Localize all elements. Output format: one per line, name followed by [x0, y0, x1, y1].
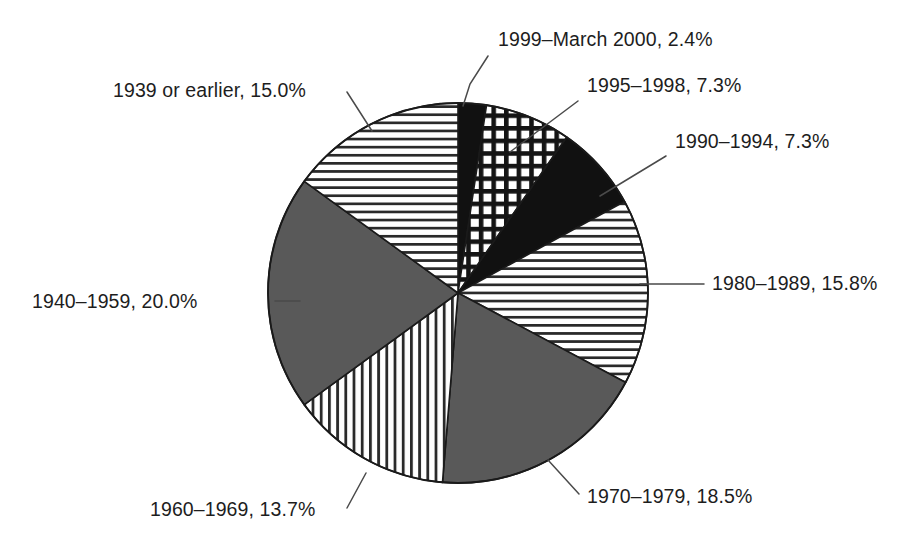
slice-label: 1999–March 2000, 2.4% [498, 28, 713, 50]
leader-line [347, 473, 366, 508]
slice-label: 1960–1969, 13.7% [150, 498, 315, 520]
slice-label: 1939 or earlier, 15.0% [113, 79, 306, 101]
leader-line [600, 156, 666, 196]
slice-label: 1995–1998, 7.3% [587, 74, 741, 96]
pie-chart-canvas: 1999–March 2000, 2.4%1995–1998, 7.3%1990… [0, 0, 913, 552]
pie-chart-figure: 1999–March 2000, 2.4%1995–1998, 7.3%1990… [0, 0, 913, 552]
slice-label: 1980–1989, 15.8% [712, 272, 877, 294]
leader-line [347, 92, 372, 131]
slice-label: 1970–1979, 18.5% [587, 485, 752, 507]
leader-line [548, 460, 579, 494]
slice-label: 1990–1994, 7.3% [675, 130, 829, 152]
slice-label: 1940–1959, 20.0% [32, 290, 197, 312]
leader-line [463, 56, 488, 106]
pie-slices [268, 103, 648, 483]
